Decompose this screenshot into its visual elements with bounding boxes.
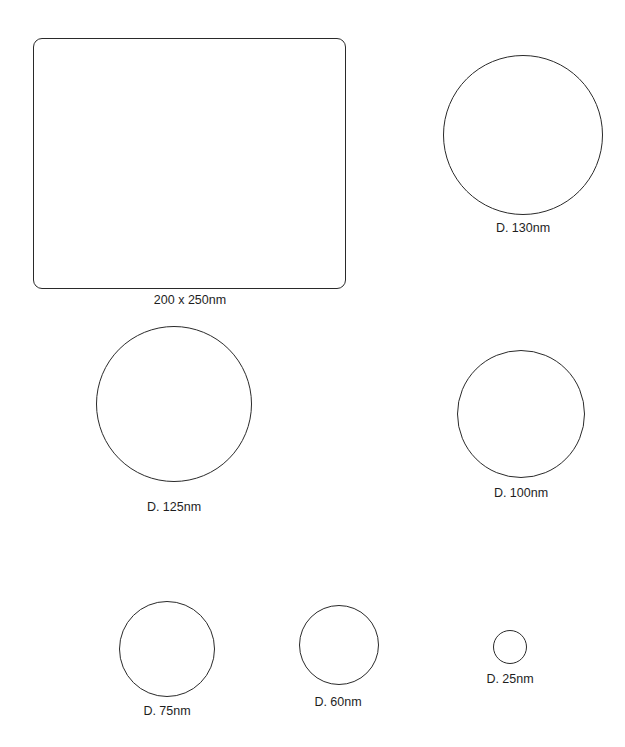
circle-60nm	[299, 605, 379, 685]
circle-100nm-label: D. 100nm	[494, 486, 548, 500]
circle-125nm	[96, 326, 252, 482]
circle-130nm-label: D. 130nm	[496, 221, 550, 235]
rectangle-200x250	[33, 38, 346, 289]
circle-75nm	[119, 601, 215, 697]
circle-125nm-label: D. 125nm	[147, 500, 201, 514]
rectangle-label: 200 x 250nm	[154, 293, 226, 307]
circle-130nm	[443, 55, 603, 215]
circle-60nm-label: D. 60nm	[314, 695, 361, 709]
circle-25nm	[493, 630, 527, 664]
circle-25nm-label: D. 25nm	[486, 672, 533, 686]
circle-75nm-label: D. 75nm	[143, 704, 190, 718]
circle-100nm	[457, 350, 585, 478]
